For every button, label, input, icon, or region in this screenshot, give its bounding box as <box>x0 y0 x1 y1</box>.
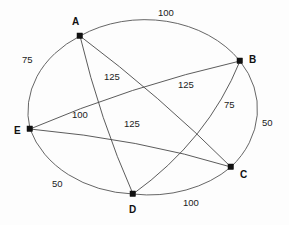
node-label-e: E <box>14 126 21 136</box>
chord-a-d <box>80 36 133 194</box>
edge-weight-a-c: 125 <box>178 80 194 90</box>
arc-b-c <box>231 61 257 167</box>
node-dot-e[interactable] <box>27 126 33 132</box>
node-label-c: C <box>240 170 247 180</box>
vertex-markers <box>27 33 243 197</box>
chord-c-e <box>30 129 231 167</box>
edge-weight-a-d: 100 <box>72 110 88 120</box>
edge-weight-d-e: 50 <box>52 179 63 189</box>
node-dot-c[interactable] <box>228 164 234 170</box>
edge-weight-a-e: 75 <box>22 55 33 65</box>
edge-weight-b-c: 50 <box>262 118 273 128</box>
edge-weight-a-b: 100 <box>158 8 174 18</box>
edge-weight-b-d: 75 <box>224 100 235 110</box>
node-label-a: A <box>72 17 79 27</box>
arc-d-e <box>30 129 133 194</box>
diagram-canvas: A B C D E 100 75 50 100 50 125 125 75 10… <box>0 0 289 225</box>
node-dot-d[interactable] <box>130 191 136 197</box>
node-dot-b[interactable] <box>237 58 243 64</box>
edge-weight-c-d: 100 <box>183 198 199 208</box>
edge-weight-c-e: 125 <box>124 119 140 129</box>
node-label-b: B <box>249 55 256 65</box>
graph-svg <box>0 0 289 225</box>
node-label-d: D <box>129 205 136 215</box>
node-dot-a[interactable] <box>77 33 83 39</box>
arc-c-d <box>133 167 231 195</box>
edge-weight-b-e: 125 <box>104 72 120 82</box>
